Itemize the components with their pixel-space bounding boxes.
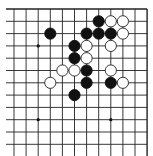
black-stone (81, 28, 92, 39)
white-stone (45, 77, 56, 88)
white-stone (69, 65, 80, 76)
go-board[interactable] (0, 0, 153, 156)
white-stone (57, 65, 68, 76)
white-stone (81, 40, 92, 51)
black-stone (69, 40, 80, 51)
white-stone (117, 16, 128, 27)
black-stone (81, 65, 92, 76)
black-stone (105, 28, 116, 39)
black-stone (81, 77, 92, 88)
black-stone (105, 77, 116, 88)
star-point-icon (109, 118, 112, 121)
white-stone (81, 53, 92, 64)
black-stone (69, 90, 80, 101)
white-stone (117, 77, 128, 88)
star-point-icon (37, 44, 40, 47)
black-stone (93, 16, 104, 27)
white-stone (105, 40, 116, 51)
white-stone (105, 16, 116, 27)
white-stone (117, 28, 128, 39)
black-stone (45, 28, 56, 39)
star-point-icon (37, 118, 40, 121)
black-stone (93, 28, 104, 39)
white-stone (105, 65, 116, 76)
black-stone (69, 53, 80, 64)
